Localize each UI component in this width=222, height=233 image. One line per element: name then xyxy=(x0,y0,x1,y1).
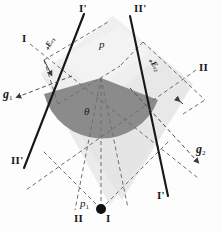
point-p1-marker xyxy=(96,204,106,214)
line-label-II-prime-bottom: II' xyxy=(11,155,24,166)
line-label-I-prime-bottom: I' xyxy=(157,190,165,201)
line-label-II-bottom: II xyxy=(74,213,83,224)
point-label-p1: p1 xyxy=(80,198,89,211)
angle-label-theta: θ xyxy=(84,106,89,117)
vector-label-g2: g2 xyxy=(196,143,206,157)
line-label-I-bottom: I xyxy=(106,213,111,224)
line-label-I-prime-top: I' xyxy=(79,3,87,14)
line-label-II-prime-top: II' xyxy=(134,3,147,14)
point-label-p: p xyxy=(99,39,105,50)
line-label-II-right: II xyxy=(199,62,208,73)
geometry-diagram xyxy=(0,0,222,233)
figure-canvas: p p1 θ I' II' I II II' I' II I g1 g2 ₊Eₑ… xyxy=(0,0,222,233)
vector-label-g1: g1 xyxy=(3,88,13,102)
line-label-I-left: I xyxy=(22,33,27,44)
